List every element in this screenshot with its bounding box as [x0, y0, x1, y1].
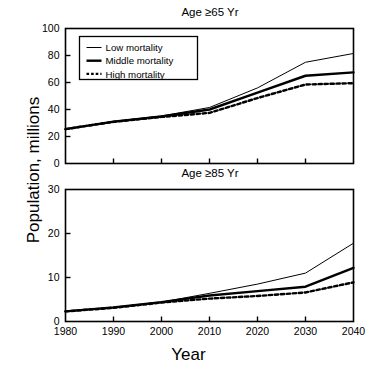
chart-legend: Low mortalityMiddle mortalityHigh mortal… [80, 37, 198, 80]
y-tick-label-age-65-100: 100 [42, 22, 60, 34]
series-line-age-85-middle-mortality [66, 268, 354, 312]
y-tick-label-age-65-0: 0 [54, 157, 60, 169]
x-tick-label-2020: 2020 [246, 325, 270, 337]
series-line-age-65-middle-mortality [66, 72, 354, 129]
y-tick-label-age-65-40: 40 [48, 103, 60, 115]
x-tick-label-2040: 2040 [342, 325, 366, 337]
x-tick-label-1990: 1990 [102, 325, 126, 337]
series-line-age-85-high-mortality [66, 282, 354, 311]
y-tick-label-age-85-30: 30 [48, 183, 60, 195]
x-tick-label-2000: 2000 [150, 325, 174, 337]
legend-label-high-mortality: High mortality [106, 69, 165, 80]
y-tick-label-age-85-10: 10 [48, 271, 60, 283]
x-tick-label-2010: 2010 [198, 325, 222, 337]
y-tick-label-age-85-20: 20 [48, 227, 60, 239]
plot-frame-age-85 [66, 190, 354, 322]
x-tick-label-2030: 2030 [294, 325, 318, 337]
chart-svg: 020406080100 198019902000201020202030204… [0, 0, 377, 377]
legend-label-low-mortality: Low mortality [106, 42, 163, 53]
y-tick-label-age-85-0: 0 [54, 315, 60, 327]
y-tick-label-age-65-60: 60 [48, 76, 60, 88]
series-line-age-85-low-mortality [66, 243, 354, 311]
y-tick-label-age-65-80: 80 [48, 49, 60, 61]
panel-age-85: 19801990200020102020203020400102030 [48, 183, 366, 336]
y-tick-label-age-65-20: 20 [48, 130, 60, 142]
series-line-age-65-high-mortality [66, 83, 354, 129]
legend-label-middle-mortality: Middle mortality [106, 55, 174, 66]
figure-container: Population, millions Year Age ≥65 Yr Age… [0, 0, 377, 377]
